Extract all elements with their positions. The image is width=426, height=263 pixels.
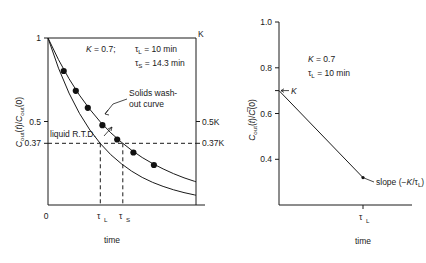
svg-text:out curve: out curve: [129, 99, 164, 109]
svg-text:K = 0.7;: K = 0.7;: [86, 44, 116, 54]
svg-text:Solids wash-: Solids wash-: [129, 88, 177, 98]
right-chart-svg: 1.0 0.8 0.6 0.4 K τ L time Cout(t)/C̅(0): [222, 0, 426, 263]
svg-text:L: L: [366, 217, 370, 224]
svg-text:K: K: [291, 86, 297, 96]
right-xtick-label-tau-L: τ L: [359, 212, 370, 224]
left-xaxis-title: time: [104, 235, 120, 245]
svg-text:τ: τ: [359, 212, 363, 222]
right-washout-line: [279, 91, 363, 178]
svg-text:Cout(t)/Cout(0): Cout(t)/Cout(0): [14, 97, 25, 147]
svg-text:Cout(t)/C̅(0): Cout(t)/C̅(0): [247, 99, 258, 141]
svg-text:S: S: [126, 216, 130, 223]
left-xtick-label-tau-L: τ L: [97, 211, 108, 223]
right-params-annotation: K = 0.7 τL = 10 min: [308, 54, 350, 79]
left-chart-svg: 1 0.5 0.37 K 0.5K 0.37K 0 τ L τ S time C: [0, 0, 222, 263]
svg-text:L: L: [104, 216, 108, 223]
svg-text:τL = 10 min: τL = 10 min: [135, 44, 177, 55]
right-xaxis-title: time: [355, 236, 371, 246]
svg-text:slope (−K/τL): slope (−K/τL): [376, 177, 424, 188]
left-ytick-label-0p37: 0.37: [24, 138, 41, 148]
left-yaxis-title: Cout(t)/Cout(0): [14, 97, 25, 147]
right-slope-endpoint: [361, 176, 364, 179]
solids-washout-label: Solids wash- out curve: [105, 88, 177, 115]
svg-text:τS = 14.3 min: τS = 14.3 min: [135, 58, 185, 69]
right-yaxis-title: Cout(t)/C̅(0): [247, 99, 258, 141]
k-marker-label: K: [281, 86, 297, 96]
left-ytick-right-label-0p5K: 0.5K: [202, 117, 220, 127]
left-params-annotation: K = 0.7; τL = 10 min τS = 14.3 min: [86, 44, 185, 69]
svg-text:liquid R.T.D.: liquid R.T.D.: [50, 129, 96, 139]
right-ytick-label-0p4: 0.4: [260, 154, 272, 164]
svg-text:K = 0.7: K = 0.7: [308, 54, 335, 64]
liquid-rtd-label: liquid R.T.D.: [50, 127, 112, 139]
right-chart-panel: 1.0 0.8 0.6 0.4 K τ L time Cout(t)/C̅(0): [222, 0, 426, 263]
left-chart-panel: 1 0.5 0.37 K 0.5K 0.37K 0 τ L τ S time C: [0, 0, 222, 263]
svg-text:τ: τ: [119, 211, 123, 221]
figure-rtd-washout-curves: 1 0.5 0.37 K 0.5K 0.37K 0 τ L τ S time C: [0, 0, 426, 263]
left-ytick-right-label-K: K: [198, 29, 204, 39]
slope-label: slope (−K/τL): [364, 177, 424, 188]
left-ytick-label-0p5: 0.5: [29, 117, 41, 127]
svg-text:τ: τ: [97, 211, 101, 221]
svg-text:τL = 10 min: τL = 10 min: [308, 68, 350, 79]
left-xtick-label-tau-S: τ S: [119, 211, 130, 223]
left-xtick-label-0: 0: [44, 211, 49, 221]
right-ytick-label-0p8: 0.8: [260, 63, 272, 73]
right-ytick-label-1p0: 1.0: [260, 17, 272, 27]
left-ytick-label-1: 1: [36, 33, 41, 43]
right-ytick-label-0p6: 0.6: [260, 109, 272, 119]
